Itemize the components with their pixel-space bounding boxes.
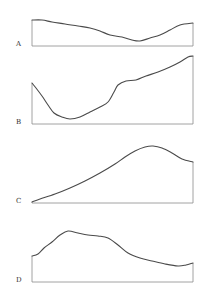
profile-curve — [32, 146, 193, 202]
panel-label: C — [16, 197, 21, 205]
panel-b: B — [16, 56, 193, 126]
panel-c: C — [16, 146, 193, 205]
panel-d: D — [16, 231, 193, 284]
profile-curve — [32, 231, 193, 266]
panel-baseline — [32, 162, 193, 203]
panel-label: D — [16, 276, 22, 284]
panel-baseline — [32, 20, 193, 46]
panel-a: A — [15, 20, 193, 48]
profile-curve — [32, 56, 193, 119]
profile-curve — [32, 20, 193, 41]
panel-label: A — [15, 40, 22, 48]
panel-baseline — [32, 256, 193, 282]
panel-baseline — [32, 56, 193, 124]
panel-label: B — [16, 118, 21, 126]
profile-curves-figure: ABCD — [0, 0, 208, 300]
